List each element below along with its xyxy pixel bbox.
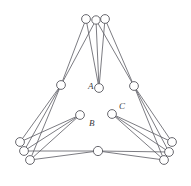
graph-node — [168, 138, 177, 147]
graph-edge — [86, 19, 99, 88]
graph-node — [165, 148, 174, 157]
graph-edge — [134, 86, 169, 152]
graph-edge — [96, 20, 99, 88]
graph-node — [101, 15, 110, 24]
graph-edge — [98, 151, 164, 160]
node-label-b: B — [89, 118, 95, 128]
graph-edge — [20, 115, 80, 142]
graph-node — [93, 146, 102, 155]
graph-edge — [20, 85, 61, 142]
graph-node — [16, 138, 25, 147]
graph-edge — [112, 114, 164, 160]
graph-edge — [112, 114, 169, 152]
graph-node-a — [95, 84, 104, 93]
graph-node — [26, 156, 35, 165]
graph-node — [160, 156, 169, 165]
node-label-a: A — [87, 81, 94, 91]
graph-edge — [30, 151, 98, 160]
graph-edge — [61, 20, 96, 85]
graph-edge — [30, 115, 80, 160]
graph-canvas: ABC — [0, 0, 191, 186]
graph-node — [92, 16, 100, 24]
graph-node — [57, 81, 66, 90]
graph-node — [20, 147, 29, 156]
nodes-group — [16, 15, 177, 165]
graph-edge — [112, 114, 172, 142]
node-label-c: C — [119, 101, 126, 111]
graph-edge — [98, 151, 169, 152]
graph-edge — [61, 19, 86, 85]
graph-edge — [24, 85, 61, 151]
graph-node-c — [108, 110, 117, 119]
graph-edge — [24, 115, 80, 151]
graph-edge — [30, 85, 61, 160]
graph-figure: ABC — [0, 0, 191, 186]
graph-edge — [99, 19, 105, 88]
graph-node — [82, 15, 91, 24]
graph-edge — [105, 19, 134, 86]
graph-node-b — [76, 111, 85, 120]
graph-node — [130, 82, 139, 91]
